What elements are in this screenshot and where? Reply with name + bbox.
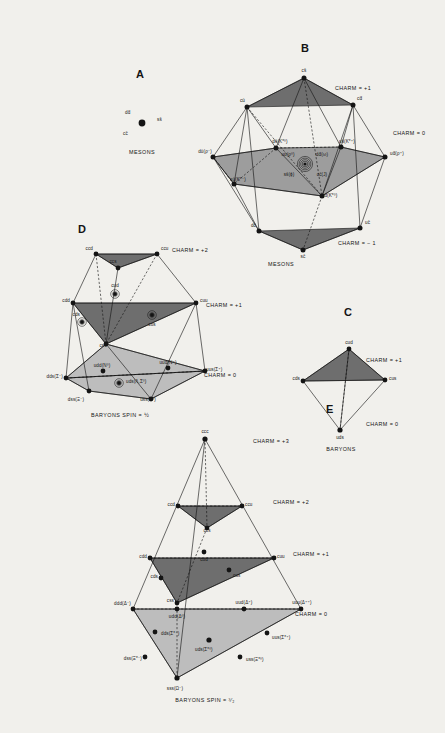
- quark-label-ccbar: cc̄: [123, 132, 128, 137]
- panel-letter-d: D: [78, 223, 86, 235]
- panel-letter-e: E: [326, 403, 333, 415]
- quark-label-e-cds: cds: [151, 575, 158, 580]
- quark-label-d-css: css: [99, 344, 106, 349]
- quark-label-d-udd-n0: udd(N⁰): [94, 364, 111, 369]
- quark-label-dubar-rhominus: dū(ρ⁻): [198, 150, 212, 155]
- charm-label-d-plus1: CHARM = +1: [206, 302, 242, 308]
- quark-label-e-dds-sigmastarminus: dds(Σ*⁻): [161, 632, 179, 637]
- quark-label-c-cud: cud: [345, 341, 353, 346]
- quark-label-e-uuu-deltaplusplus: uuu(Δ⁺⁺): [292, 601, 311, 606]
- charm-label-b-plus1: CHARM = +1: [335, 85, 371, 91]
- quark-label-d-cds: cds: [73, 313, 80, 318]
- quark-label-e-ccu: ccu: [245, 503, 252, 508]
- quark-label-d-ccu: ccu: [161, 247, 168, 252]
- charm-label-e-zero: CHARM = 0: [295, 611, 328, 617]
- quark-label-ssbar-phi: ss̄(ϕ): [284, 173, 295, 178]
- quark-label-e-cud: cud: [200, 558, 208, 563]
- quark-label-e-ccd: ccd: [168, 503, 175, 508]
- quark-label-ddbar: dd̄: [125, 111, 130, 116]
- quark-label-cdbar: cd̄: [357, 97, 362, 102]
- quark-label-c-cds: cds: [293, 377, 300, 382]
- panel-d-geometry: [66, 254, 205, 399]
- quark-label-d-cud: cud: [111, 284, 119, 289]
- quark-label-d-dss-ximinus: dss(Ξ⁻): [68, 398, 84, 403]
- panel-a-geometry: [139, 120, 146, 127]
- quark-label-d-ccd: ccd: [86, 247, 93, 252]
- caption-mesons-a: MESONS: [129, 149, 155, 155]
- figure-canvas: A B C D E MESONS MESONS BARYONS BARYONS …: [0, 0, 445, 733]
- quark-label-e-ccc: ccc: [201, 430, 208, 435]
- caption-baryons-spin-three-half: BARYONS SPIN = ³⁄₂: [175, 697, 234, 703]
- quark-label-e-cdd: cdd: [139, 555, 147, 560]
- quark-label-e-uud-deltaplus: uud(Δ⁺): [236, 601, 253, 606]
- quark-label-d-ccs: ccs: [109, 260, 116, 265]
- quark-label-e-ddd-deltaminus: ddd(Δ⁻): [114, 602, 131, 607]
- charm-label-e-plus3: CHARM = +3: [253, 438, 289, 444]
- quark-label-e-css: css: [167, 599, 174, 604]
- charm-label-d-plus2: CHARM = +2: [172, 247, 208, 253]
- quark-label-scbar: sc̄: [301, 255, 306, 260]
- charm-label-c-zero: CHARM = 0: [366, 421, 399, 427]
- quark-label-e-uss-xistar0: uss(Ξ*⁰): [246, 658, 264, 663]
- quark-label-d-cus: cus: [148, 323, 155, 328]
- caption-mesons-b: MESONS: [268, 261, 294, 267]
- charm-label-b-zero: CHARM = 0: [393, 130, 426, 136]
- quark-label-d-cdd: cdd: [62, 299, 70, 304]
- quark-label-c-cus: cus: [389, 377, 396, 382]
- quark-label-e-sss-omegaminus: sss(Ω⁻): [167, 687, 184, 692]
- quark-label-uubar-rho0: uū(ρ⁰): [281, 153, 294, 158]
- quark-label-cubar: cū: [240, 99, 245, 104]
- quark-label-e-cuu: cuu: [277, 555, 285, 560]
- panel-letter-c: C: [344, 306, 352, 318]
- quark-label-usbar-kstarplus: us̄(K*⁺): [339, 140, 355, 145]
- charm-label-c-plus1: CHARM = +1: [366, 357, 402, 363]
- caption-baryons-c: BARYONS: [326, 446, 355, 452]
- quark-label-d-cuu: cuu: [200, 299, 208, 304]
- quark-label-ssbar: ss̄: [157, 118, 162, 123]
- quark-label-csbar: cs̄: [302, 69, 307, 74]
- quark-label-e-dss-xistarminus: dss(Ξ*⁻): [124, 657, 142, 662]
- quark-label-udbar-rhoplus: ud̄(ρ⁺): [390, 152, 404, 157]
- quark-label-e-uus-sigmastarplus: uus(Σ*⁺): [272, 636, 290, 641]
- quark-label-e-uds-sigmastar0: uds(Σ*⁰): [195, 648, 213, 653]
- quark-label-e-cus: cus: [233, 574, 240, 579]
- caption-baryons-spin-half: BARYONS SPIN = ½: [91, 412, 149, 418]
- quark-label-ucbar: uc̄: [365, 221, 370, 226]
- quark-label-d-dds-sigmaminus: dds(Σ⁻): [47, 375, 63, 380]
- panel-letter-a: A: [136, 68, 144, 80]
- quark-label-ddbar-omega: dd̄(ω): [316, 153, 328, 158]
- charm-label-d-zero: CHARM = 0: [204, 372, 237, 378]
- quark-label-e-ccs: ccs: [203, 529, 210, 534]
- charm-label-b-minus1: CHARM = − 1: [338, 240, 376, 246]
- charm-label-e-plus1: CHARM = +1: [293, 551, 329, 557]
- panel-letter-b: B: [301, 42, 309, 54]
- quark-label-d-uus-sigmaplus: uus(Σ⁺): [206, 368, 222, 373]
- quark-label-d-uss-xi0: uss(Ξ⁰): [140, 398, 156, 403]
- quark-label-ccbar-j: cc̄(J): [317, 173, 327, 178]
- quark-label-d-uud-nplus: uud(N⁺): [159, 361, 176, 366]
- figure-vector-layer: [0, 0, 445, 733]
- quark-label-sdbar-kstar0: sd̄(K*⁰): [322, 194, 337, 199]
- charm-label-e-plus2: CHARM = +2: [273, 499, 309, 505]
- quark-label-c-uds: uds: [336, 436, 344, 441]
- quark-label-dcbar: dc̄: [251, 224, 256, 229]
- quark-label-subar-kstarminus: sū(K*⁻): [230, 178, 246, 183]
- quark-label-e-udd-delta0: udd(Δ⁰): [169, 615, 185, 620]
- quark-label-d-uds-lambda-sigma0: uds(Λ,Σ⁰): [126, 380, 146, 385]
- quark-label-dsbar-kstar0: ds̄(K*⁰): [272, 140, 287, 145]
